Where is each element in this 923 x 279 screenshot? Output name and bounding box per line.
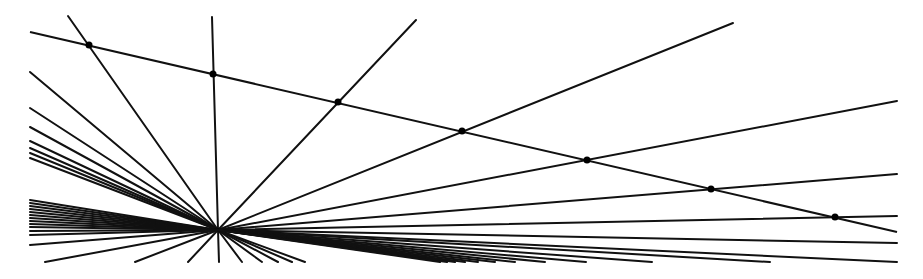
intersection-markers [86, 42, 839, 221]
intersection-dot [210, 71, 217, 78]
intersection-dot [584, 157, 591, 164]
perspective-diagram [0, 0, 923, 279]
upper-ray [218, 216, 897, 230]
upper-ray [218, 23, 733, 230]
intersection-dot [335, 99, 342, 106]
intersection-dot [459, 128, 466, 135]
lower-ray [218, 230, 219, 262]
intersection-dot [86, 42, 93, 49]
intersection-dot [708, 186, 715, 193]
right-ray [218, 230, 897, 262]
diagram-canvas [0, 0, 923, 279]
intersection-dot [832, 214, 839, 221]
ray-fan [30, 16, 897, 262]
upper-ray [218, 174, 897, 230]
upper-ray [218, 101, 897, 230]
upper-ray [212, 17, 218, 230]
